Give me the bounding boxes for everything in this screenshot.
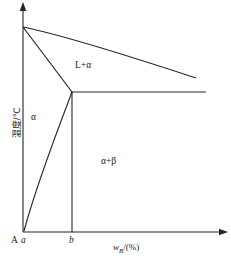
x-axis-title-unit: /(%): [123, 242, 139, 252]
region-label-alpha: α: [31, 113, 36, 123]
y-axis-title: 温度/℃: [13, 107, 22, 138]
phase-diagram-canvas: [0, 0, 231, 260]
phase-diagram-figure: L+α α α+β A a b wB/(%) 温度/℃: [0, 0, 231, 260]
y-axis-arrowhead: [20, 2, 27, 11]
x-axis-arrowhead: [219, 229, 228, 236]
axis-label-component-a: A: [11, 236, 18, 246]
region-label-alpha-beta: α+β: [101, 157, 116, 167]
x-axis-title: wB/(%): [113, 243, 139, 255]
region-label-liquid-alpha: L+α: [75, 61, 91, 71]
liquidus-curve: [23, 27, 196, 78]
x-axis-tick-label-a: a: [21, 236, 26, 246]
x-axis-tick-label-b: b: [69, 236, 74, 246]
